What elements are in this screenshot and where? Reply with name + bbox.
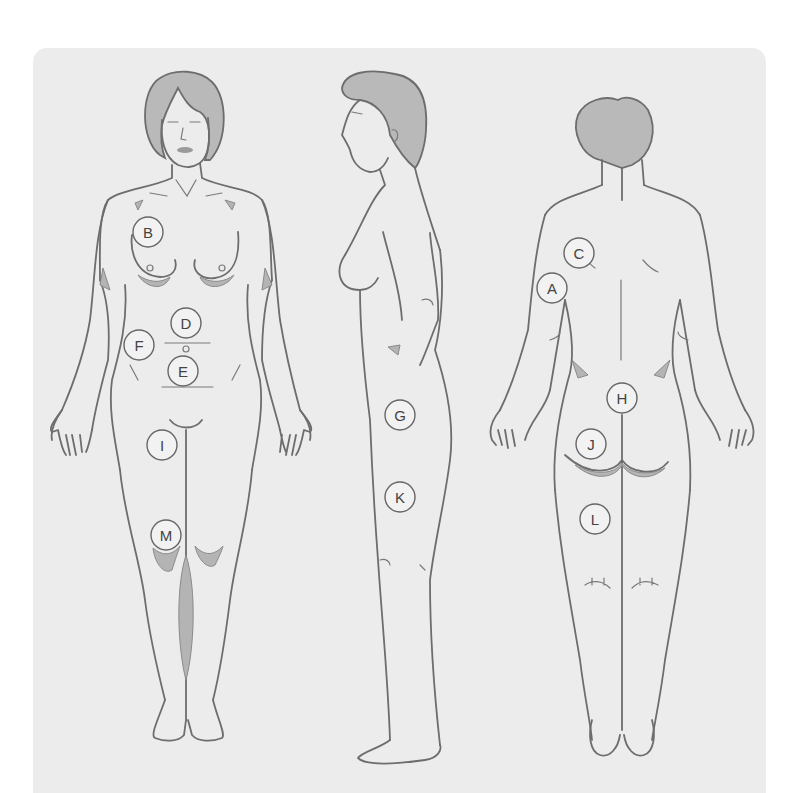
front-hand-right [280, 410, 311, 455]
front-lips [177, 147, 193, 153]
back-knee-right [632, 578, 658, 588]
front-leg-outer-right [213, 470, 252, 700]
marker-g[interactable]: G [385, 400, 415, 430]
side-back [430, 250, 451, 745]
side-front-body [360, 290, 390, 740]
front-hip-right [232, 365, 240, 380]
marker-e-label: E [178, 363, 188, 380]
front-feet [153, 700, 223, 741]
marker-c-label: C [574, 245, 585, 262]
back-waist-shade-left [572, 360, 588, 378]
back-hand-right [695, 390, 754, 448]
marker-f[interactable]: F [124, 330, 154, 360]
front-nose [181, 128, 186, 140]
marker-a-label: A [547, 280, 557, 297]
front-breast-right [194, 232, 238, 278]
marker-k-label: K [395, 489, 405, 506]
side-elbow [422, 299, 433, 305]
front-face [162, 118, 209, 167]
front-shoulder-shade-right [225, 200, 235, 210]
marker-f-label: F [134, 337, 143, 354]
front-hand-left [51, 410, 92, 455]
marker-b-label: B [143, 224, 153, 241]
side-neck-back [345, 168, 440, 255]
front-inner-calf-shade [179, 555, 193, 680]
marker-l-label: L [591, 511, 599, 528]
front-shoulder-shade-left [135, 200, 143, 210]
back-knee-left [585, 578, 610, 588]
marker-b[interactable]: B [133, 217, 163, 247]
front-knee-shade-right [195, 546, 223, 566]
side-waist-shade [388, 345, 400, 355]
side-knee [380, 559, 425, 570]
front-leg-outer-left [120, 470, 165, 700]
back-arm-left [500, 215, 565, 410]
marker-h[interactable]: H [607, 383, 637, 413]
marker-l[interactable]: L [580, 504, 610, 534]
marker-j[interactable]: J [576, 429, 606, 459]
marker-g-label: G [394, 407, 406, 424]
marker-i-label: I [160, 437, 164, 454]
back-buttocks [565, 415, 668, 730]
marker-d-label: D [181, 315, 192, 332]
side-foot [358, 740, 440, 764]
side-breast [340, 255, 378, 290]
marker-m[interactable]: M [151, 520, 181, 550]
marker-c[interactable]: C [564, 238, 594, 268]
marker-i[interactable]: I [147, 430, 177, 460]
front-hair [145, 72, 224, 160]
back-hand-left [490, 390, 550, 448]
front-nipple-right [219, 265, 225, 271]
front-nipple-left [147, 265, 153, 271]
front-neck-v [176, 180, 196, 196]
front-navel [183, 346, 189, 352]
back-scapula-right [643, 260, 658, 272]
marker-k[interactable]: K [385, 482, 415, 512]
side-hair [342, 71, 426, 168]
back-waist-shade-right [654, 360, 670, 378]
front-torso-outline [100, 163, 272, 280]
marker-e[interactable]: E [168, 356, 198, 386]
back-arm-right [680, 215, 745, 410]
side-eye [352, 112, 362, 114]
marker-a[interactable]: A [537, 273, 567, 303]
back-hair [576, 98, 653, 168]
front-view-figure [51, 72, 311, 741]
marker-m-label: M [160, 527, 173, 544]
marker-j-label: J [587, 436, 595, 453]
back-view-figure [490, 98, 753, 756]
side-arm [383, 232, 438, 365]
marker-d[interactable]: D [171, 308, 201, 338]
marker-h-label: H [617, 390, 628, 407]
front-hip-left [130, 365, 138, 380]
site-markers: A B C D E F G H I J K L M [124, 217, 637, 550]
